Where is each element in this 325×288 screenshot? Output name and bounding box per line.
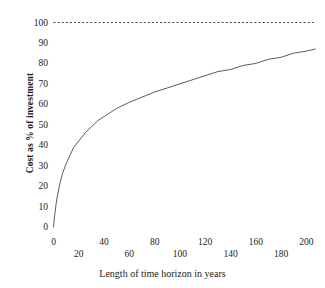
x-tick-label: 200 bbox=[291, 237, 321, 247]
x-tick-label: 0 bbox=[39, 237, 69, 247]
y-tick-label: 30 bbox=[22, 161, 48, 171]
cost-curve-line bbox=[54, 49, 316, 227]
y-tick-label: 20 bbox=[22, 181, 48, 191]
y-tick-label: 50 bbox=[22, 120, 48, 130]
x-tick-label: 180 bbox=[266, 249, 296, 259]
x-tick-label: 160 bbox=[241, 237, 271, 247]
y-tick-label: 100 bbox=[22, 18, 48, 28]
y-tick-label: 70 bbox=[22, 79, 48, 89]
x-tick-label: 20 bbox=[64, 249, 94, 259]
x-tick-label: 60 bbox=[114, 249, 144, 259]
x-tick-label: 80 bbox=[140, 237, 170, 247]
y-tick-label: 10 bbox=[22, 202, 48, 212]
y-tick-label: 0 bbox=[22, 222, 48, 232]
chart-figure: Cost as % of investment Length of time h… bbox=[0, 0, 325, 288]
x-axis-title: Length of time horizon in years bbox=[0, 268, 325, 279]
x-tick-label: 40 bbox=[89, 237, 119, 247]
y-tick-label: 40 bbox=[22, 140, 48, 150]
y-tick-label: 80 bbox=[22, 58, 48, 68]
x-tick-label: 140 bbox=[216, 249, 246, 259]
y-tick-label: 90 bbox=[22, 38, 48, 48]
x-tick-label: 120 bbox=[190, 237, 220, 247]
y-tick-label: 60 bbox=[22, 99, 48, 109]
x-tick-label: 100 bbox=[165, 249, 195, 259]
